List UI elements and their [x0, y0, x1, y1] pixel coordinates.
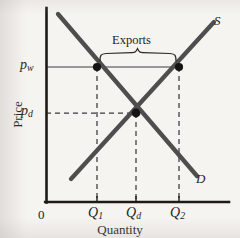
demand-curve-label: D	[196, 172, 205, 185]
x-axis-title: Quantity	[0, 223, 240, 236]
exports-brace	[100, 49, 176, 61]
x-tick-label-q1-sub: 1	[98, 210, 103, 221]
y-tick-label-pd-sub: d	[28, 108, 33, 119]
exports-annotation-label: Exports	[112, 34, 151, 47]
x-tick-label-q2-sub: 2	[180, 210, 185, 221]
y-tick-label-pw-sub: w	[27, 62, 34, 73]
supply-curve-label: S	[214, 14, 221, 27]
x-tick-label-qd-sub: d	[136, 210, 141, 221]
marker-equilibrium	[132, 109, 141, 118]
y-tick-label-pw: pw	[20, 58, 34, 73]
x-tick-label-qd: Qd	[126, 206, 141, 221]
origin-label: 0	[38, 208, 45, 221]
x-tick-label-q1-base: Q	[88, 205, 98, 220]
supply-demand-figure: pw pd 0 Q1 Qd Q2 Quantity Price Exports …	[0, 0, 240, 238]
y-tick-label-pw-base: p	[20, 57, 27, 72]
marker-q2-pw	[175, 63, 183, 71]
marker-q1-pw	[93, 63, 101, 71]
x-tick-label-q1: Q1	[88, 206, 103, 221]
x-tick-label-q2-base: Q	[170, 205, 180, 220]
x-tick-label-qd-base: Q	[126, 205, 136, 220]
x-tick-label-q2: Q2	[170, 206, 185, 221]
y-axis-title: Price	[11, 85, 24, 145]
